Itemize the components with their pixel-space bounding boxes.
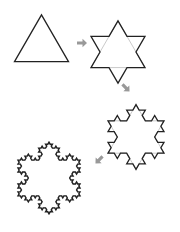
arrow-right-shape [77,39,87,47]
stage-snowflake-2 [108,105,164,170]
iteration-2-outline [108,105,164,170]
iteration-1-outline [91,21,145,83]
iteration-1-previous-outline [91,21,145,68]
stage-triangle [15,15,69,62]
arrow-down-right-icon [119,81,132,94]
stage-snowflake-3 [18,142,80,214]
arrow-down-right-shape [119,81,132,94]
arrow-down-left-shape [92,153,105,166]
stage-star [91,21,145,83]
iteration-3-outline [18,142,80,214]
arrow-down-left-icon [92,153,105,166]
arrow-right-icon [77,39,87,47]
iteration-2-previous-outline [108,105,164,170]
koch-diagram [0,0,180,232]
iteration-3-previous-outline [18,142,80,214]
iteration-0-outline [15,15,69,62]
